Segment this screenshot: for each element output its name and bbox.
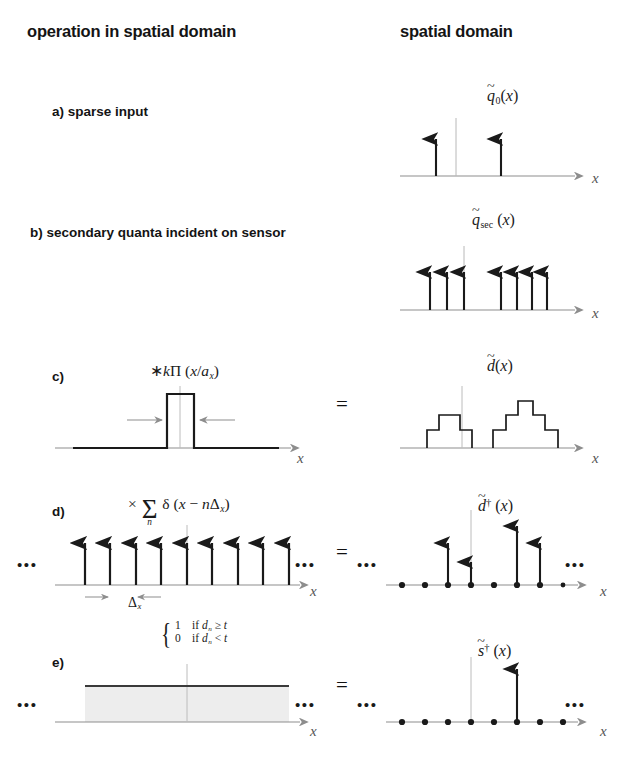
axis-label-e: x: [600, 723, 607, 740]
sample-dot-e-8: [560, 719, 566, 725]
comb-impulses: [85, 543, 289, 585]
sample-dot-e-5: [491, 719, 497, 725]
impulse-group-b-left: [430, 272, 464, 310]
plot-d-comb: [55, 525, 320, 609]
plot-c-rect: [55, 378, 310, 460]
rect-function-curve: [73, 394, 279, 448]
operation-expression-e: { 1if dn ≥ t 0if dn < t: [159, 620, 227, 646]
panel-c-right: [400, 378, 596, 460]
panel-e-left: [55, 660, 320, 740]
header-spatial-column: spatial domain: [400, 22, 513, 41]
sample-dot-2: [422, 582, 428, 588]
panel-e-right: [386, 655, 601, 745]
equals-sign-c: =: [336, 392, 348, 417]
panel-c-left: [55, 378, 310, 460]
function-label-q0: ~q0(x): [487, 88, 518, 106]
operation-expression-d: × Σn δ (x − nΔx): [128, 492, 230, 519]
figure-root: operation in spatial domain spatial doma…: [0, 0, 626, 774]
plot-e-sampled: [386, 655, 601, 745]
sample-dot-e-3: [445, 719, 451, 725]
equals-sign-e: =: [336, 673, 348, 698]
ellipsis-left-e-result: •••: [357, 697, 378, 714]
piecewise-brace: {: [161, 621, 171, 645]
ellipsis-left-d: •••: [17, 557, 38, 574]
piecewise-case-0: 0if dn < t: [175, 631, 227, 645]
ellipsis-left-e: •••: [17, 697, 38, 714]
function-label-d: ~d(x): [487, 358, 513, 374]
piecewise-case-1: 1if dn ≥ t: [175, 618, 227, 632]
row-label-b: b) secondary quanta incident on sensor: [30, 225, 286, 240]
plot-e-threshold: [55, 660, 320, 740]
row-label-d: d): [52, 504, 65, 519]
staircase-group-2: [493, 401, 558, 448]
sample-dot-e-2: [422, 719, 428, 725]
sample-dot-e-7: [537, 719, 543, 725]
impulse-group-b-right: [501, 272, 547, 310]
plot-c-staircase: [400, 378, 596, 460]
panel-a-right: [400, 110, 596, 188]
sample-dot-1: [399, 582, 405, 588]
sample-dot-e-1: [399, 719, 405, 725]
plot-a-impulses: [400, 110, 596, 188]
panel-d-right: [386, 510, 601, 610]
header-operation-column: operation in spatial domain: [27, 22, 236, 41]
ellipsis-left-d-result: •••: [357, 557, 378, 574]
staircase-group-1: [427, 415, 472, 448]
sampled-impulses-d: [448, 526, 540, 585]
sample-dot-8: [561, 583, 566, 588]
row-label-a: a) sparse input: [52, 104, 148, 119]
plot-b-impulses: [400, 240, 596, 322]
equals-sign-d: =: [336, 540, 348, 565]
sample-dot-5: [491, 582, 497, 588]
function-label-qsec: ~qsec (x): [472, 212, 515, 230]
sample-dot-e-4: [468, 719, 474, 725]
panel-b-right: [400, 240, 596, 322]
axis-label-d: x: [600, 583, 607, 600]
panel-d-left: [55, 525, 320, 609]
plot-d-sampled: [386, 510, 601, 610]
